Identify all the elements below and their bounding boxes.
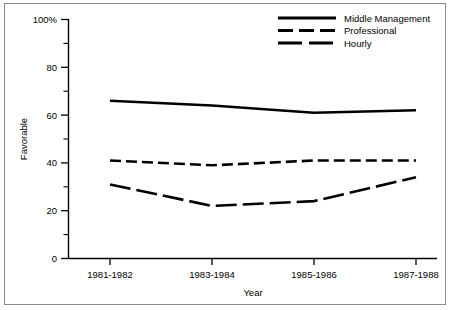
x-tick-label-1: 1983-1984 bbox=[189, 269, 234, 280]
series-line-hourly bbox=[110, 177, 416, 206]
chart-legend: Middle Management Professional Hourly bbox=[278, 13, 430, 49]
x-tick-labels: 1981-1982 1983-1984 1985-1986 1987-1988 bbox=[87, 269, 438, 280]
y-tick-label-20: 20 bbox=[46, 205, 57, 216]
series-group bbox=[110, 101, 416, 206]
series-line-professional bbox=[110, 161, 416, 166]
chart-figure: 100% 80 60 40 20 0 1981-1982 1983-1984 1… bbox=[0, 0, 450, 310]
x-tick-label-2: 1985-1986 bbox=[291, 269, 336, 280]
y-tick-label-60: 60 bbox=[46, 110, 57, 121]
y-tick-label-80: 80 bbox=[46, 62, 57, 73]
y-tick-label-0: 0 bbox=[52, 253, 57, 264]
axis-group bbox=[61, 19, 437, 265]
legend-label-middle-management: Middle Management bbox=[344, 13, 430, 24]
x-tick-label-3: 1987-1988 bbox=[393, 269, 438, 280]
legend-label-hourly: Hourly bbox=[344, 38, 372, 49]
y-tick-labels: 100% 80 60 40 20 0 bbox=[33, 14, 58, 264]
x-tick-label-0: 1981-1982 bbox=[87, 269, 132, 280]
legend-label-professional: Professional bbox=[344, 25, 396, 36]
x-axis-title: Year bbox=[243, 287, 262, 298]
y-tick-label-40: 40 bbox=[46, 157, 57, 168]
y-axis-title: Favorable bbox=[18, 118, 29, 160]
series-line-middle-management bbox=[110, 101, 416, 113]
y-tick-label-100: 100% bbox=[33, 14, 58, 25]
line-chart: 100% 80 60 40 20 0 1981-1982 1983-1984 1… bbox=[0, 0, 450, 310]
